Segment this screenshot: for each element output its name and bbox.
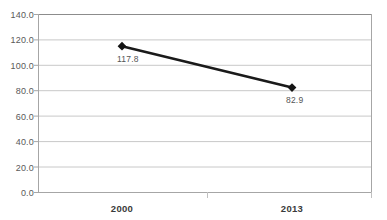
- y-axis-label-120: 120.0: [0, 35, 34, 45]
- y-axis-label-60: 60.0: [0, 112, 34, 122]
- plot-area: [0, 0, 387, 220]
- y-axis-label-40: 40.0: [0, 137, 34, 147]
- data-label-2013: 82.9: [286, 95, 303, 105]
- y-axis-label-140: 140.0: [0, 10, 34, 20]
- y-tick-marks: [34, 15, 38, 193]
- plot-background: [38, 14, 372, 192]
- x-axis-label-2013: 2013: [268, 203, 316, 214]
- y-axis-label-0: 0.0: [0, 188, 34, 198]
- y-axis-label-100: 100.0: [0, 61, 34, 71]
- y-axis-label-20: 20.0: [0, 163, 34, 173]
- line-chart: 140.0 120.0 100.0 80.0 60.0 40.0 20.0 0.…: [0, 0, 387, 220]
- x-axis-label-2000: 2000: [98, 203, 146, 214]
- y-axis-label-80: 80.0: [0, 86, 34, 96]
- data-label-2000: 117.8: [117, 54, 139, 64]
